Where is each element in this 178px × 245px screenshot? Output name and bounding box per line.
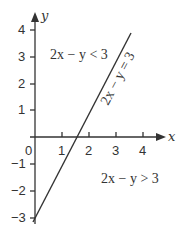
svg-text:1: 1 xyxy=(18,102,25,117)
svg-text:−3: −3 xyxy=(11,210,26,225)
svg-text:2: 2 xyxy=(18,76,25,91)
region-label-less: 2x − y < 3 xyxy=(50,47,108,62)
svg-text:2: 2 xyxy=(85,143,92,158)
x-axis-label: x xyxy=(168,129,176,144)
region-label-greater: 2x − y > 3 xyxy=(101,171,159,186)
svg-text:4: 4 xyxy=(139,143,146,158)
y-axis-arrow-icon xyxy=(31,12,39,22)
graph: y x 4 3 2 1 −1 −2 −3 0 1 2 3 4 2x − y < … xyxy=(0,0,178,245)
svg-text:−2: −2 xyxy=(11,183,26,198)
svg-text:1: 1 xyxy=(58,143,65,158)
svg-text:3: 3 xyxy=(112,143,119,158)
svg-text:4: 4 xyxy=(18,22,25,37)
svg-text:3: 3 xyxy=(18,49,25,64)
svg-text:−1: −1 xyxy=(11,156,26,171)
svg-text:0: 0 xyxy=(25,143,32,158)
y-axis-label: y xyxy=(40,8,49,23)
x-axis-arrow-icon xyxy=(156,133,166,141)
